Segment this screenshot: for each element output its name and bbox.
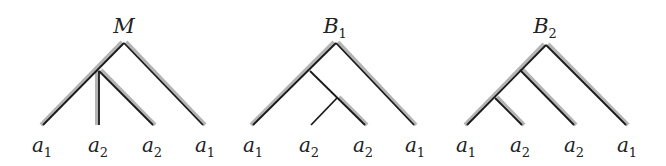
leaf-label: a1 — [243, 133, 263, 160]
leaf-label: a1 — [617, 133, 637, 160]
leaf-label: a1 — [456, 133, 476, 160]
tree-edge — [99, 71, 153, 125]
tree-title: B1 — [322, 14, 347, 41]
tree-edge — [546, 45, 626, 125]
shaded-edge — [339, 97, 367, 125]
tree-edge — [495, 98, 522, 125]
tree-b2: B2a1a2a2a1 — [456, 14, 637, 160]
shaded-edge — [465, 44, 544, 125]
leaf-label: a2 — [142, 133, 162, 160]
leaf-label: a2 — [353, 133, 373, 160]
leaf-label: a1 — [405, 133, 425, 160]
shaded-edge — [41, 42, 122, 125]
tree-diagram-canvas: Ma1a2a2a1 B1a1a2a2a1 B2a1a2a2a1 — [0, 0, 666, 166]
shaded-edge — [338, 42, 416, 125]
shaded-edge — [497, 97, 524, 125]
shaded-edge — [522, 69, 576, 125]
tree-title: B2 — [532, 14, 557, 41]
leaf-label: a1 — [32, 133, 52, 160]
tree-edge — [336, 43, 414, 125]
leaf-label: a2 — [564, 133, 584, 160]
tree-m: Ma1a2a2a1 — [32, 14, 215, 160]
tree-b1: B1a1a2a2a1 — [243, 14, 425, 160]
shaded-edge — [101, 70, 155, 125]
leaf-label: a2 — [299, 133, 319, 160]
tree-title: M — [112, 14, 135, 38]
leaf-label: a1 — [195, 133, 215, 160]
tree-edge — [520, 70, 574, 125]
shaded-edge — [126, 42, 205, 125]
tree-edge — [311, 98, 337, 125]
tree-edge — [124, 43, 203, 125]
shaded-edge — [548, 44, 628, 125]
leaf-label: a2 — [88, 133, 108, 160]
leaf-label: a2 — [510, 133, 530, 160]
